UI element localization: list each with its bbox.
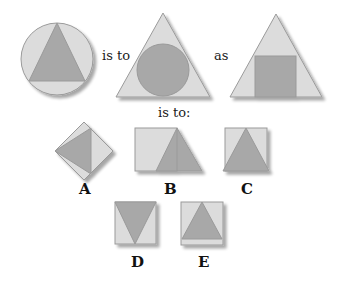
option-b-label[interactable]: B: [164, 182, 177, 197]
option-a-shape[interactable]: [55, 122, 113, 180]
as-label: as: [214, 49, 228, 62]
analogy-figure: [0, 0, 341, 285]
option-a-label[interactable]: A: [79, 182, 91, 197]
circle-with-triangle-shape: [21, 23, 93, 95]
option-d-label[interactable]: D: [131, 255, 144, 270]
triangle-with-square-shape: [230, 14, 322, 97]
option-e-label[interactable]: E: [198, 255, 209, 270]
triangle-with-circle-shape: [116, 13, 210, 97]
option-e-shape[interactable]: [181, 202, 223, 245]
is-to-colon-label: is to:: [158, 106, 190, 119]
option-c-label[interactable]: C: [241, 182, 253, 197]
is-to-label: is to: [102, 49, 130, 62]
option-c-shape[interactable]: [223, 128, 269, 171]
option-b-shape[interactable]: [135, 128, 202, 171]
option-d-shape[interactable]: [115, 202, 156, 244]
